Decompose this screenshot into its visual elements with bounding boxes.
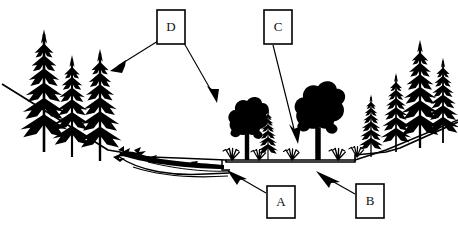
callout-d-leader-right <box>184 43 212 92</box>
callout-a[interactable]: A <box>227 170 295 218</box>
callout-b-leader <box>332 181 355 194</box>
callout-a-label: A <box>276 194 286 209</box>
callout-c-leader <box>273 45 294 129</box>
callout-b-label: B <box>366 193 375 208</box>
callout-a-leader <box>240 178 266 193</box>
left-conifer-stand <box>20 29 121 161</box>
callout-b[interactable]: B <box>316 171 384 218</box>
callout-a-arrowhead <box>227 170 247 185</box>
callout-d-arrowhead-right <box>207 86 219 103</box>
right-conifer-stand <box>359 40 458 157</box>
diagram-svg: D C A B <box>0 0 458 225</box>
callout-d-label: D <box>166 19 175 34</box>
callout-b-arrowhead <box>316 171 340 188</box>
diagram-canvas: D C A B <box>0 0 458 225</box>
callout-d[interactable]: D <box>110 10 219 103</box>
center-vegetation <box>223 81 364 160</box>
callout-c-label: C <box>274 19 283 34</box>
callout-c-arrowhead <box>289 124 301 144</box>
callout-d-arrowhead-left <box>110 60 126 73</box>
